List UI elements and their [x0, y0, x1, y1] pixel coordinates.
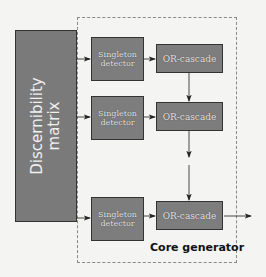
connector-arrows	[0, 0, 266, 277]
